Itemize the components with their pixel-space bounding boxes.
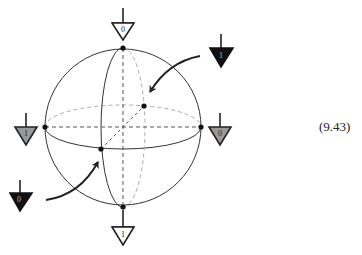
point-bottom — [120, 204, 125, 209]
state-label-top: 0 — [121, 25, 125, 34]
state-symbol-front: 0 — [10, 180, 32, 211]
equation-number: (9.43) — [319, 119, 350, 135]
state-label-right: 0 — [218, 129, 222, 138]
bloch-sphere-diagram: 0 1 1 0 1 0 — [0, 0, 362, 255]
state-symbol-back: 1 — [210, 34, 233, 67]
arrow-to-back-point — [150, 56, 200, 92]
point-top — [120, 45, 125, 50]
equator-front — [45, 127, 201, 149]
state-label-front: 0 — [17, 195, 21, 204]
state-symbol-right: 0 — [209, 113, 231, 145]
arrow-to-front-point — [46, 162, 98, 200]
state-symbol-top: 0 — [112, 8, 134, 40]
point-left — [42, 124, 47, 129]
equator-back — [45, 105, 201, 127]
state-label-bottom: 1 — [121, 230, 125, 239]
state-label-left: 1 — [24, 129, 28, 138]
point-back — [141, 103, 146, 108]
state-symbol-left: 1 — [15, 113, 37, 145]
point-right — [198, 124, 203, 129]
meridian-back — [123, 48, 145, 207]
point-front — [98, 146, 103, 151]
state-label-back: 1 — [219, 51, 223, 60]
state-symbol-bottom: 1 — [112, 210, 134, 245]
